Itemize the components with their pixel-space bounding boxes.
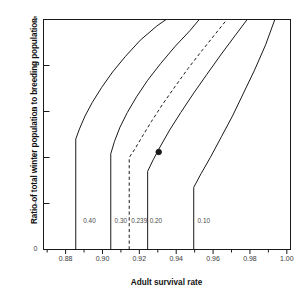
y-tick-label: 4 <box>26 61 38 68</box>
x-tick-label: 1.00 <box>272 255 302 262</box>
x-axis-label-text: Adult survival rate <box>131 278 202 287</box>
x-tick-label: 0.94 <box>161 255 191 262</box>
x-tick-label: 0.98 <box>235 255 265 262</box>
curve-0-10 <box>194 20 275 250</box>
axis-ticks <box>44 20 287 255</box>
curve-0-20 <box>148 20 248 250</box>
y-axis-label: Ratio of total winter population to bree… <box>23 24 41 224</box>
data-point-markers <box>156 149 162 155</box>
x-tick-label: 0.88 <box>51 255 81 262</box>
y-tick-label: 3 <box>26 107 38 114</box>
curve-label-0-30: 0.30 <box>115 217 127 224</box>
curve-0-40 <box>76 20 166 250</box>
y-tick-label: 0 <box>26 245 38 252</box>
observed-point <box>156 149 162 155</box>
curve-label-0-10: 0.10 <box>198 217 210 224</box>
plot-area <box>0 0 308 296</box>
curve-0-239 <box>129 20 227 250</box>
y-tick-label: 1 <box>26 199 38 206</box>
curve-0-30 <box>111 20 199 250</box>
x-tick-label: 0.92 <box>124 255 154 262</box>
y-axis-label-text: Ratio of total winter population to bree… <box>30 18 39 224</box>
x-tick-label: 0.96 <box>198 255 228 262</box>
y-tick-label: 5 <box>26 15 38 22</box>
curve-label-0-239: 0.239 <box>131 217 147 224</box>
chart-figure: Ratio of total winter population to bree… <box>0 0 308 296</box>
x-axis-label: Adult survival rate <box>43 271 290 289</box>
curve-lines <box>76 20 275 250</box>
y-tick-label: 2 <box>26 153 38 160</box>
curve-label-0-20: 0.20 <box>150 217 162 224</box>
curve-label-0-40: 0.40 <box>83 217 95 224</box>
x-tick-label: 0.90 <box>87 255 117 262</box>
